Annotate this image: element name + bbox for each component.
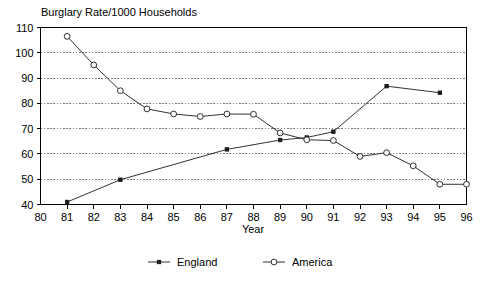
x-tick-label-93: 93	[381, 211, 393, 223]
data-point-america-92	[357, 154, 363, 160]
x-tick-label-91: 91	[327, 211, 339, 223]
data-point-america-94	[410, 163, 416, 169]
x-tick-label-89: 89	[274, 211, 286, 223]
x-axis-label: Year	[242, 223, 265, 235]
legend-marker-america	[271, 259, 277, 265]
data-point-america-87	[224, 111, 230, 117]
data-point-america-89	[277, 130, 283, 136]
x-tick-label-80: 80	[34, 211, 46, 223]
data-point-england-83	[119, 178, 122, 181]
x-tick-label-83: 83	[114, 211, 126, 223]
series-england	[65, 84, 441, 203]
legend-marker-england	[157, 260, 160, 263]
data-point-america-84	[144, 106, 150, 112]
y-axis-ticks: 405060708090100110	[15, 22, 40, 211]
data-point-america-83	[117, 88, 123, 94]
x-tick-label-94: 94	[407, 211, 419, 223]
data-point-america-86	[197, 114, 203, 120]
x-tick-label-82: 82	[88, 211, 100, 223]
data-point-england-87	[225, 148, 228, 151]
x-axis-ticks: 8081828384858687888990919293949596	[34, 205, 472, 223]
data-point-america-93	[384, 150, 390, 156]
legend-item-america[interactable]: America	[263, 256, 333, 268]
x-tick-label-85: 85	[168, 211, 180, 223]
data-point-america-88	[251, 111, 257, 117]
data-point-america-91	[330, 138, 336, 144]
series-america	[64, 33, 469, 187]
data-point-america-95	[437, 181, 443, 187]
legend-label-england: England	[177, 256, 217, 268]
x-tick-label-81: 81	[61, 211, 73, 223]
y-tick-label-70: 70	[21, 123, 33, 135]
x-tick-label-92: 92	[354, 211, 366, 223]
y-tick-label-40: 40	[21, 199, 33, 211]
chart-canvas: Burglary Rate/1000 Households 4050607080…	[0, 0, 482, 287]
y-tick-label-110: 110	[16, 22, 34, 34]
x-tick-label-90: 90	[301, 211, 313, 223]
data-point-england-95	[438, 91, 441, 94]
data-point-america-82	[91, 62, 97, 68]
x-tick-label-96: 96	[460, 211, 472, 223]
x-tick-label-88: 88	[247, 211, 259, 223]
y-tick-label-60: 60	[21, 148, 33, 160]
x-tick-label-84: 84	[141, 211, 153, 223]
y-tick-label-100: 100	[15, 47, 33, 59]
chart-title: Burglary Rate/1000 Households	[41, 6, 197, 18]
y-tick-label-50: 50	[21, 173, 33, 185]
y-tick-label-80: 80	[21, 97, 33, 109]
data-point-england-81	[65, 200, 68, 203]
x-tick-label-87: 87	[221, 211, 233, 223]
series-line-america	[67, 36, 466, 184]
legend-label-america: America	[292, 256, 333, 268]
data-series	[64, 33, 469, 203]
data-point-america-90	[304, 137, 310, 143]
data-point-england-91	[332, 130, 335, 133]
x-tick-label-95: 95	[434, 211, 446, 223]
data-point-america-96	[464, 181, 470, 187]
data-point-england-89	[278, 138, 281, 141]
y-tick-label-90: 90	[21, 72, 33, 84]
burglary-rate-chart: Burglary Rate/1000 Households 4050607080…	[0, 0, 482, 287]
x-tick-label-86: 86	[194, 211, 206, 223]
legend-item-england[interactable]: England	[148, 256, 217, 268]
data-point-england-93	[385, 84, 388, 87]
data-point-america-81	[64, 33, 70, 39]
data-point-america-85	[171, 111, 177, 117]
chart-legend: EnglandAmerica	[148, 256, 333, 268]
